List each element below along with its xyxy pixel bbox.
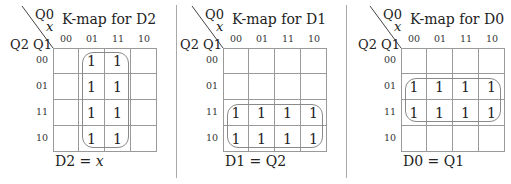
kmap-grid: 1 1 1 1 1 1 1 1 bbox=[401, 48, 505, 152]
kmap-d1: Q0 x K-map for D1 Q2 Q1 00 01 11 10 00 0… bbox=[170, 0, 340, 184]
kmap-group-outline bbox=[227, 104, 323, 148]
simplified-equation: D0 = Q1 bbox=[403, 153, 464, 169]
kmap-cell bbox=[223, 74, 249, 100]
column-header: 11 bbox=[275, 33, 301, 44]
kmap-cell bbox=[453, 126, 479, 152]
kmap-cell bbox=[401, 48, 427, 74]
row-variable-label: Q2 Q1 bbox=[10, 37, 52, 52]
kmap-cell bbox=[301, 48, 327, 74]
input-variable-label: x bbox=[46, 19, 53, 34]
column-header: 11 bbox=[105, 33, 131, 44]
simplified-equation: D2 = x bbox=[55, 153, 104, 169]
equation-rhs: Q2 bbox=[266, 153, 286, 169]
column-header: 10 bbox=[301, 33, 327, 44]
column-header: 11 bbox=[453, 33, 479, 44]
kmap-cell bbox=[427, 126, 453, 152]
row-header: 00 bbox=[194, 54, 218, 65]
kmap-cell bbox=[275, 74, 301, 100]
panel-divider bbox=[346, 5, 347, 178]
kmap-cell bbox=[249, 74, 275, 100]
column-header: 00 bbox=[53, 33, 79, 44]
kmap-title: K-map for D2 bbox=[62, 11, 156, 27]
row-header: 10 bbox=[372, 132, 396, 143]
row-header: 00 bbox=[372, 54, 396, 65]
row-header: 01 bbox=[372, 80, 396, 91]
row-variable-label: Q2 Q1 bbox=[358, 37, 400, 52]
kmap-grid: 1 1 1 1 1 1 1 1 bbox=[53, 48, 157, 152]
kmap-cell bbox=[479, 126, 505, 152]
kmap-d0: Q0 x K-map for D0 Q2 Q1 00 01 11 10 00 0… bbox=[348, 0, 511, 184]
kmap-cell bbox=[131, 74, 157, 100]
kmap-cell bbox=[453, 48, 479, 74]
column-header: 01 bbox=[427, 33, 453, 44]
kmap-cell bbox=[427, 48, 453, 74]
kmap-cell bbox=[223, 48, 249, 74]
kmap-cell bbox=[131, 100, 157, 126]
row-variable-label: Q2 Q1 bbox=[180, 37, 222, 52]
input-variable-label: x bbox=[216, 19, 223, 34]
equation-lhs: D0 = bbox=[403, 153, 444, 169]
row-header: 11 bbox=[372, 106, 396, 117]
kmap-cell bbox=[131, 48, 157, 74]
equation-rhs: x bbox=[96, 153, 104, 169]
equation-rhs: Q1 bbox=[444, 153, 464, 169]
row-header: 01 bbox=[24, 80, 48, 91]
kmap-group-outline bbox=[82, 52, 129, 148]
kmap-grid: 1 1 1 1 1 1 1 1 bbox=[223, 48, 327, 152]
kmap-cell bbox=[53, 100, 79, 126]
kmap-cell bbox=[479, 48, 505, 74]
column-header: 10 bbox=[479, 33, 505, 44]
kmap-cell bbox=[53, 126, 79, 152]
row-header: 01 bbox=[194, 80, 218, 91]
kmap-cell bbox=[275, 48, 301, 74]
equation-lhs: D1 = bbox=[225, 153, 266, 169]
kmap-d2: Q0 x K-map for D2 Q2 Q1 00 01 11 10 00 0… bbox=[0, 0, 170, 184]
row-header: 00 bbox=[24, 54, 48, 65]
kmap-group-outline bbox=[405, 78, 501, 122]
simplified-equation: D1 = Q2 bbox=[225, 153, 286, 169]
kmap-cell bbox=[249, 48, 275, 74]
column-header: 10 bbox=[131, 33, 157, 44]
kmap-cell bbox=[131, 126, 157, 152]
equation-lhs: D2 = bbox=[55, 153, 96, 169]
column-header: 01 bbox=[249, 33, 275, 44]
kmap-cell bbox=[401, 126, 427, 152]
kmap-title: K-map for D1 bbox=[232, 11, 326, 27]
row-header: 10 bbox=[194, 132, 218, 143]
row-header: 11 bbox=[24, 106, 48, 117]
column-header: 00 bbox=[401, 33, 427, 44]
kmap-title: K-map for D0 bbox=[410, 11, 504, 27]
kmap-cell bbox=[53, 48, 79, 74]
column-header: 01 bbox=[79, 33, 105, 44]
kmap-cell bbox=[53, 74, 79, 100]
row-header: 10 bbox=[24, 132, 48, 143]
kmap-cell bbox=[301, 74, 327, 100]
input-variable-label: x bbox=[394, 19, 401, 34]
row-header: 11 bbox=[194, 106, 218, 117]
column-header: 00 bbox=[223, 33, 249, 44]
